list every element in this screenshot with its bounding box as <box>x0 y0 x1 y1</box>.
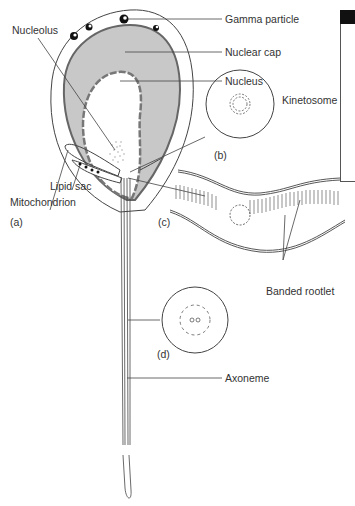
doublet-ring-d <box>180 305 210 335</box>
panel-label-c: (c) <box>158 217 170 228</box>
label-gamma-particle: Gamma particle <box>225 14 299 25</box>
axoneme-section-d <box>162 287 228 353</box>
axoneme <box>121 178 131 498</box>
label-banded-rootlet: Banded rootlet <box>266 286 334 297</box>
panel-label-b: (b) <box>214 150 227 161</box>
panel-label-a: (a) <box>10 217 23 228</box>
label-kinetosome: Kinetosome <box>282 95 337 106</box>
rootlet-bands <box>176 185 338 214</box>
label-nucleolus: Nucleolus <box>12 25 58 36</box>
label-lipid-sac: Lipid sac <box>50 181 91 192</box>
label-nuclear-cap: Nuclear cap <box>225 47 281 58</box>
label-nucleus: Nucleus <box>225 76 263 87</box>
label-mitochondrion: Mitochondrion <box>10 197 76 208</box>
panel-label-d: (d) <box>157 349 170 360</box>
label-axoneme: Axoneme <box>225 373 269 384</box>
zoospore-diagram <box>0 0 355 506</box>
triplet-ring-b <box>230 94 250 114</box>
